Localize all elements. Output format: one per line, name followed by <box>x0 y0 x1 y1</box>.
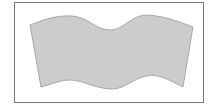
diagram-canvas <box>0 0 215 109</box>
